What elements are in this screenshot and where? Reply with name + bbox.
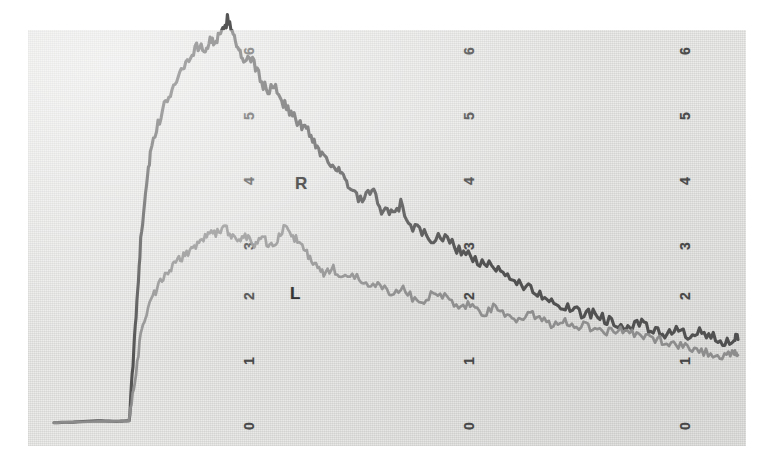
figure-container: 6 5 4 3 2 1 0 6 5 4 3 2 1 0 6 5 4 3 2 1 …: [0, 0, 768, 462]
trace-canvas: [28, 30, 746, 446]
scanned-chart-plate: 6 5 4 3 2 1 0 6 5 4 3 2 1 0 6 5 4 3 2 1 …: [28, 30, 746, 446]
trace-path-r: [54, 15, 738, 423]
series-label-r: R: [295, 174, 307, 194]
series-label-l: L: [290, 284, 300, 304]
